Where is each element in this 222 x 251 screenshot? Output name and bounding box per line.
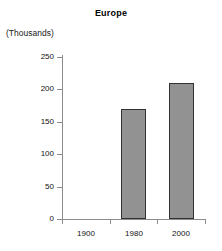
- y-axis-tick-label: 150: [28, 118, 54, 126]
- y-axis-unit-label: (Thousands): [6, 28, 54, 38]
- y-axis-tick-label-wrap: 200: [26, 85, 54, 93]
- y-axis-tick-label: 0: [28, 215, 54, 223]
- y-axis-tick: [57, 57, 63, 58]
- bar: [169, 83, 194, 219]
- y-axis-tick-label: 50: [28, 183, 54, 191]
- y-axis-tick: [57, 154, 63, 155]
- y-axis-tick-label-wrap: 50: [26, 183, 54, 191]
- x-axis-tick: [157, 219, 158, 224]
- y-axis-tick-label-wrap: 100: [26, 150, 54, 158]
- x-axis-tick-label: 2000: [157, 229, 205, 238]
- y-axis-tick-label-wrap: 250: [26, 53, 54, 61]
- y-axis-tick-label: 250: [28, 53, 54, 61]
- chart-title: Europe: [0, 8, 222, 19]
- y-axis-tick-label-wrap: 0: [26, 215, 54, 223]
- x-axis-line: [62, 219, 205, 220]
- x-axis-tick: [205, 219, 206, 224]
- bar: [121, 109, 146, 219]
- x-axis-tick-label: 1900: [62, 229, 110, 238]
- y-axis-tick: [57, 187, 63, 188]
- y-axis-line: [62, 55, 63, 220]
- x-axis-tick: [62, 219, 63, 224]
- x-axis-tick-label: 1980: [110, 229, 158, 238]
- y-axis-tick: [57, 122, 63, 123]
- y-axis-tick-label: 100: [28, 150, 54, 158]
- y-axis-tick-label-wrap: 150: [26, 118, 54, 126]
- x-axis-tick: [110, 219, 111, 224]
- y-axis-tick-label: 200: [28, 85, 54, 93]
- y-axis-tick: [57, 89, 63, 90]
- bar-chart: Europe (Thousands) 050100150200250 19001…: [0, 0, 222, 251]
